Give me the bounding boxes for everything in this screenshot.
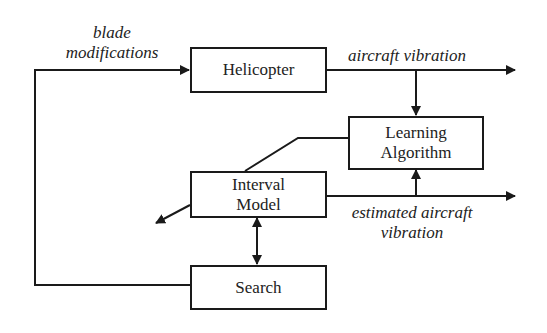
search-node: Search [190,265,327,310]
helicopter-node: Helicopter [190,47,327,93]
learning-label-line1: Learning [385,123,446,143]
diagram: Helicopter Learning Algorithm Interval M… [0,0,547,333]
interval-model-node: Interval Model [190,171,327,218]
blade-label-line2: modifications [52,43,172,63]
blade-modifications-edge [35,70,190,285]
search-label: Search [235,278,281,298]
blade-modifications-label: blade modifications [52,23,172,62]
aircraft-vibration-label: aircraft vibration [348,46,466,66]
blade-label-line1: blade [52,23,172,43]
learning-label-line2: Algorithm [381,143,452,163]
interval-lower-left-edge [156,205,190,223]
interval-label-line1: Interval [232,175,285,195]
learning-algorithm-node: Learning Algorithm [348,116,484,170]
estimated-label-line2: vibration [342,223,482,243]
estimated-vibration-label: estimated aircraft vibration [342,203,482,242]
helicopter-label: Helicopter [223,60,295,80]
learning-to-interval-edge [245,138,348,171]
interval-label-line2: Model [236,195,280,215]
estimated-label-line1: estimated aircraft [342,203,482,223]
